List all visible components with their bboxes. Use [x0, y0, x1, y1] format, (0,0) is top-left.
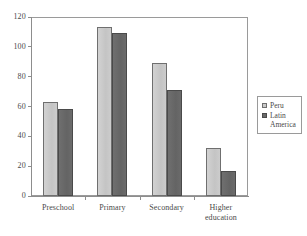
x-axis-label-secondary: Secondary [140, 203, 194, 213]
bars-layer [32, 17, 248, 196]
bar-peru-primary [97, 27, 112, 196]
x-axis-label-primary: Primary [85, 203, 139, 213]
bar-latin-america-primary [112, 33, 127, 196]
bar-peru-higher-education [206, 148, 221, 196]
chart-legend: PeruLatin America [257, 96, 302, 134]
x-axis-label-higher-education: Higher education [194, 203, 248, 222]
legend-swatch-latin-america-icon [262, 113, 267, 118]
legend-item-peru[interactable]: Peru [262, 101, 298, 110]
bar-chart: 020406080100120 PreschoolPrimarySecondar… [0, 0, 307, 236]
legend-label: Peru [270, 101, 284, 110]
legend-swatch-peru-icon [262, 103, 267, 108]
bar-peru-preschool [43, 102, 58, 196]
x-tick-mark [194, 196, 195, 200]
x-tick-mark [85, 196, 86, 200]
legend-label: Latin America [270, 111, 296, 129]
x-axis-label-preschool: Preschool [31, 203, 85, 213]
bar-latin-america-preschool [58, 109, 73, 196]
bar-latin-america-secondary [167, 90, 182, 196]
x-tick-mark [140, 196, 141, 200]
bar-latin-america-higher-education [221, 171, 236, 196]
bar-peru-secondary [152, 63, 167, 196]
legend-item-latin-america[interactable]: Latin America [262, 111, 298, 129]
